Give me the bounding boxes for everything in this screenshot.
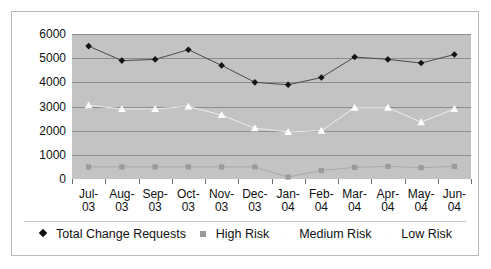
x-axis-tick-mark — [371, 179, 372, 184]
x-axis-tick-mark — [471, 179, 472, 184]
data-point-marker — [385, 56, 392, 63]
legend-diamond-marker-icon — [38, 228, 49, 239]
x-axis-category-label: Jul-03 — [72, 188, 105, 214]
data-point-marker — [450, 105, 458, 112]
data-point-marker — [452, 164, 457, 169]
data-point-marker — [252, 79, 259, 86]
x-axis-tick-mark — [205, 179, 206, 184]
y-axis-tick-label: 3000 — [14, 101, 66, 113]
data-point-marker — [85, 101, 93, 108]
chart-container: 0100020003000400050006000 Jul-03Aug-03Se… — [0, 0, 491, 269]
x-axis-category-label: Mar-04 — [338, 188, 371, 214]
data-point-marker — [86, 164, 91, 169]
x-axis-tick-mark — [405, 179, 406, 184]
x-axis-category-label: Jan-04 — [272, 188, 305, 214]
x-axis-category-label: Nov-03 — [205, 188, 238, 214]
data-point-marker — [119, 164, 124, 169]
y-axis-tick-label: 2000 — [14, 125, 66, 137]
legend-item-medium-risk[interactable]: Medium Risk — [281, 227, 371, 241]
x-axis-tick-mark — [338, 179, 339, 184]
x-axis-tick-mark — [238, 179, 239, 184]
data-point-marker — [417, 118, 425, 125]
data-point-marker — [285, 81, 292, 88]
chart-legend: Total Change RequestsHigh RiskMedium Ris… — [24, 221, 466, 245]
x-axis-category-label: Apr-04 — [371, 188, 404, 214]
data-point-marker — [418, 60, 425, 67]
legend-item-label: Low Risk — [401, 227, 452, 241]
data-point-marker — [184, 103, 192, 110]
x-axis-tick-mark — [438, 179, 439, 184]
x-axis-category-label: Sep-03 — [139, 188, 172, 214]
series-total-change-requests — [85, 43, 457, 88]
data-point-marker — [352, 165, 357, 170]
data-point-marker — [85, 43, 92, 50]
data-point-marker — [286, 174, 291, 179]
data-point-marker — [451, 51, 458, 58]
legend-item-label: Medium Risk — [299, 227, 371, 241]
data-point-marker — [385, 164, 390, 169]
data-point-marker — [153, 164, 158, 169]
x-axis-tick-mark — [105, 179, 106, 184]
data-point-marker — [419, 165, 424, 170]
y-axis-tick-label: 0 — [14, 173, 66, 185]
series-line — [89, 166, 455, 177]
series-line — [89, 105, 455, 132]
y-axis-tick-label: 6000 — [14, 28, 66, 40]
x-axis-tick-mark — [139, 179, 140, 184]
data-point-marker — [119, 57, 126, 64]
data-point-marker — [185, 46, 192, 53]
y-axis-tick-label: 5000 — [14, 52, 66, 64]
y-axis-tick-label: 1000 — [14, 149, 66, 161]
x-axis-category-label: Feb-04 — [305, 188, 338, 214]
legend-square-marker-icon — [198, 228, 209, 239]
chart-title — [0, 0, 491, 3]
series-high-risk — [86, 164, 457, 180]
legend-item-label: High Risk — [216, 227, 270, 241]
y-axis-tick-label: 4000 — [14, 76, 66, 88]
x-axis-category-label: Oct-03 — [172, 188, 205, 214]
chart-frame: 0100020003000400050006000 Jul-03Aug-03Se… — [11, 11, 479, 256]
data-point-marker — [318, 74, 325, 81]
legend-item-low-risk[interactable]: Low Risk — [383, 227, 452, 241]
data-point-marker — [351, 54, 358, 61]
data-point-marker — [251, 124, 259, 131]
x-axis-category-label: Jun-04 — [438, 188, 471, 214]
data-point-marker — [186, 164, 191, 169]
data-point-marker — [252, 164, 257, 169]
x-axis-tick-mark — [305, 179, 306, 184]
x-axis-tick-mark — [272, 179, 273, 184]
x-axis-category-label: Aug-03 — [105, 188, 138, 214]
x-axis-category-label: Dec-03 — [238, 188, 271, 214]
data-series-layer — [72, 34, 471, 179]
x-axis-tick-mark — [172, 179, 173, 184]
data-point-marker — [317, 127, 325, 134]
legend-item-total-change-requests[interactable]: Total Change Requests — [38, 227, 186, 241]
x-axis-tick-mark — [72, 179, 73, 184]
data-point-marker — [218, 62, 225, 69]
data-point-marker — [219, 164, 224, 169]
legend-item-label: Total Change Requests — [56, 227, 186, 241]
legend-triangle-marker-icon — [281, 228, 292, 239]
plot-wrapper: 0100020003000400050006000 Jul-03Aug-03Se… — [72, 34, 471, 179]
data-point-marker — [319, 168, 324, 173]
legend-item-high-risk[interactable]: High Risk — [198, 227, 270, 241]
data-point-marker — [152, 56, 159, 63]
legend-blank-marker-icon — [383, 228, 394, 239]
series-line — [89, 46, 455, 85]
x-axis-category-label: May-04 — [405, 188, 438, 214]
series-medium-risk — [85, 101, 459, 135]
